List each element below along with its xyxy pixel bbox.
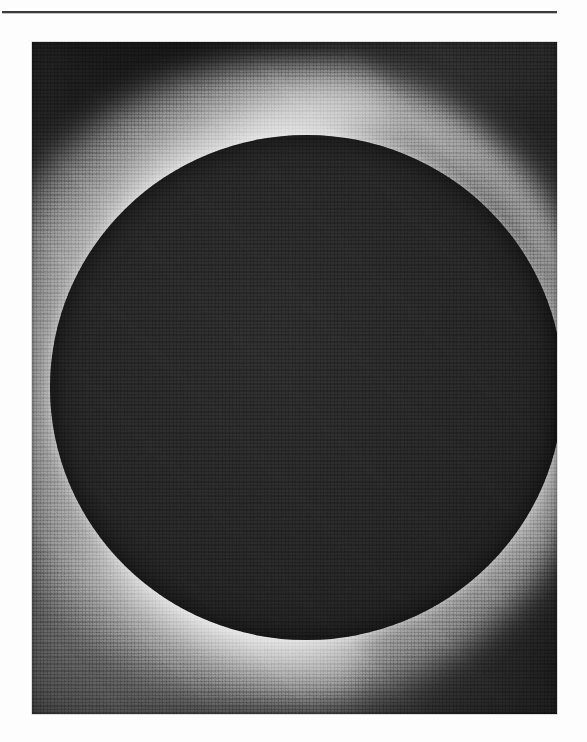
document-page xyxy=(0,0,587,742)
eclipse-plate-figure xyxy=(32,42,557,714)
header-rule xyxy=(2,11,557,13)
lunar-disk xyxy=(50,135,557,640)
